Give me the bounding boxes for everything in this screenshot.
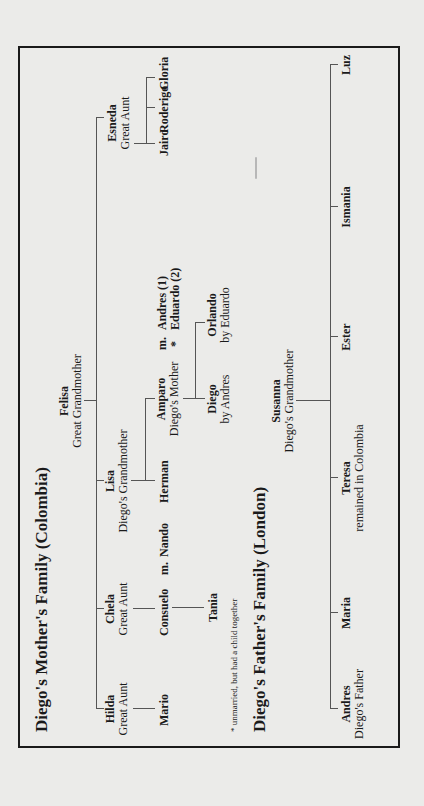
node-role: Diego's Grandmother (283, 346, 296, 456)
node-mario: Mario (157, 694, 172, 726)
node-amparo: Amparo Diego's Mother (155, 354, 181, 444)
unmarried-marker: * (168, 341, 183, 347)
tree-line (145, 399, 146, 481)
tree-line (146, 78, 147, 144)
node-diego: Diego by Andres (206, 364, 232, 434)
tree-line (330, 477, 338, 478)
tree-line (133, 708, 155, 709)
node-gloria: Gloria (157, 57, 172, 90)
node-luz: Luz (340, 50, 353, 80)
tree-line (96, 118, 97, 709)
node-name: Luz (340, 50, 353, 80)
node-roderigo: Roderigo (157, 86, 172, 133)
node-herman: Herman (157, 460, 172, 503)
node-esneda: Esneda Great Aunt (106, 83, 132, 163)
node-role: by Andres (219, 364, 232, 434)
tree-line (84, 400, 96, 401)
node-andres: Andres Diego's Father (340, 664, 366, 744)
tree-line (330, 708, 338, 709)
mother-family-title: Diego's Mother's Family (Colombia) (32, 467, 52, 732)
node-ester: Ester (340, 312, 353, 362)
node-chela: Chela Great Aunt (104, 579, 130, 639)
tree-line (146, 77, 155, 78)
tree-line (195, 398, 205, 399)
tree-line (146, 143, 155, 144)
node-ismania: Ismania (340, 177, 353, 237)
tree-line (296, 400, 330, 401)
node-name: Ester (340, 312, 353, 362)
tree-line (330, 612, 338, 613)
node-orlando: Orlando by Eduardo (206, 280, 232, 350)
node-role: by Eduardo (219, 280, 232, 350)
node-role: Diego's Father (353, 664, 366, 744)
node-felisa: Felisa Great Grandmother (58, 351, 84, 451)
tree-line (145, 480, 155, 481)
tree-line (330, 336, 338, 337)
tree-line (330, 64, 338, 65)
tree-line (330, 206, 338, 207)
tree-line (183, 398, 195, 399)
node-name: Maria (340, 588, 353, 638)
node-susanna: Susanna Diego's Grandmother (270, 346, 296, 456)
family-tree-sheet: Diego's Mother's Family (Colombia) Felis… (0, 0, 424, 806)
node-tania: Tania (206, 593, 221, 622)
node-lisa: Lisa Diego's Grandmother (104, 426, 130, 536)
node-role: Diego's Mother (168, 354, 181, 444)
marriage-marker: m. (157, 562, 172, 575)
father-family-title: Diego's Father's Family (London) (250, 487, 270, 732)
footnote: * unmarried, but had a child together (229, 599, 239, 732)
node-maria: Maria (340, 588, 353, 638)
tree-line (131, 480, 145, 481)
node-role: remained in Colombia (353, 418, 366, 538)
tree-line (146, 107, 155, 108)
tree-line (172, 607, 204, 608)
tree-line (96, 117, 104, 118)
node-jairo: Jairo (157, 130, 172, 156)
node-nando: Nando (157, 523, 172, 557)
node-eduardo-spouse: Eduardo (2) (168, 268, 183, 330)
node-role: Great Aunt (117, 579, 130, 639)
tree-line (195, 323, 196, 399)
node-role: Great Aunt (117, 679, 130, 739)
tree-line (133, 608, 155, 609)
node-hilda: Hilda Great Aunt (104, 679, 130, 739)
node-role: Diego's Grandmother (117, 426, 130, 536)
page-background: Diego's Mother's Family (Colombia) Felis… (0, 0, 424, 806)
node-role: Great Grandmother (71, 351, 84, 451)
node-role: Great Aunt (119, 83, 132, 163)
tree-line (134, 143, 146, 144)
pencil-mark (255, 157, 257, 179)
tree-line (195, 322, 205, 323)
node-name: Ismania (340, 177, 353, 237)
node-consuelo: Consuelo (157, 589, 172, 636)
node-teresa: Teresa remained in Colombia (340, 418, 366, 538)
